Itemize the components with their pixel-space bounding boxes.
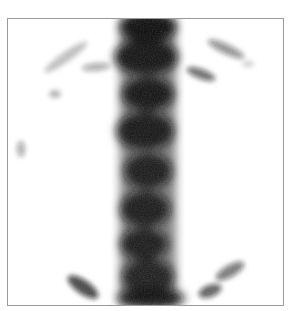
bone-scan-image [8, 19, 283, 305]
scan-frame [7, 18, 284, 306]
